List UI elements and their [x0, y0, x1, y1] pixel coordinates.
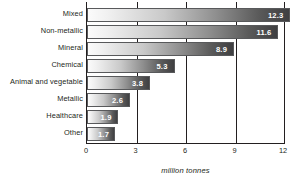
gridline-3 [137, 2, 138, 143]
gridline-6 [186, 2, 187, 143]
xtick-label-6: 6 [183, 146, 187, 155]
gridline-9 [236, 2, 237, 143]
bar-value-mineral: 8.9 [216, 44, 227, 53]
category-label-other: Other [0, 129, 83, 137]
bar-metallic [87, 93, 130, 107]
xtick-label-3: 3 [133, 146, 137, 155]
category-axis: Mixed Non-metallic Mineral Chemical Anim… [0, 7, 83, 144]
bar-value-metallic: 2.6 [112, 95, 123, 104]
category-label-non-metallic: Non-metallic [0, 27, 83, 35]
category-label-mixed: Mixed [0, 10, 83, 18]
bar-value-mixed: 12.3 [268, 10, 283, 19]
category-label-chemical: Chemical [0, 61, 83, 69]
plot-area: 12.3 11.6 8.9 5.3 3.8 2.6 [86, 2, 285, 144]
category-label-metallic: Metallic [0, 95, 83, 103]
bar-mixed [87, 8, 290, 22]
category-label-healthcare: Healthcare [0, 112, 83, 120]
bar-value-other: 1.7 [98, 129, 109, 138]
bar-mineral [87, 42, 234, 56]
xtick-label-0: 0 [84, 146, 88, 155]
value-axis: 0 3 6 9 12 [86, 146, 285, 158]
bar-chart: Mixed Non-metallic Mineral Chemical Anim… [0, 0, 298, 182]
bar-value-healthcare: 1.9 [101, 112, 112, 121]
category-label-animal-and-vegetable: Animal and vegetable [0, 78, 83, 86]
gridline-12 [284, 2, 285, 143]
bar-value-non-metallic: 11.6 [257, 27, 272, 36]
xtick-label-9: 9 [232, 146, 236, 155]
category-label-mineral: Mineral [0, 44, 83, 52]
bar-non-metallic [87, 25, 278, 39]
xtick-label-12: 12 [279, 146, 287, 155]
bar-value-chemical: 5.3 [157, 61, 168, 70]
bar-value-animal-and-vegetable: 3.8 [132, 78, 143, 87]
axis-caption: million tonnes [86, 166, 285, 175]
